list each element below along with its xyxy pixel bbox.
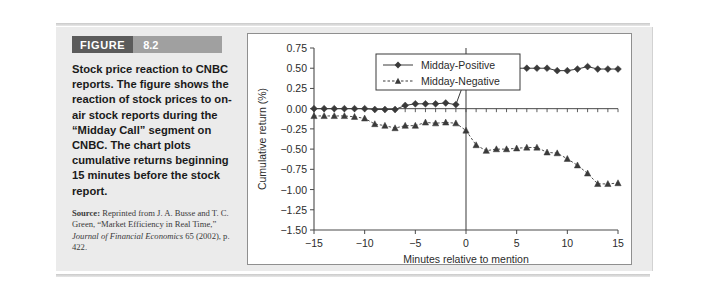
figure-page: FIGURE 8.2 Stock price reaction to CNBC …: [0, 0, 714, 300]
y-tick-label: −0.25: [280, 123, 307, 135]
data-point-marker: [544, 149, 550, 155]
y-tick-label: 0.75: [287, 42, 308, 54]
source-prefix: Source:: [72, 208, 100, 218]
x-tick-label: 0: [463, 237, 469, 249]
data-point-marker: [311, 105, 318, 112]
x-axis-label: Minutes relative to mention: [403, 253, 529, 264]
data-point-marker: [442, 100, 449, 107]
data-point-marker: [432, 100, 439, 107]
data-point-marker: [584, 63, 591, 70]
data-point-marker: [371, 106, 378, 113]
top-divider-rule: [56, 23, 650, 26]
x-tick-label: −5: [409, 237, 421, 249]
data-point-marker: [463, 127, 469, 133]
data-point-marker: [321, 105, 328, 112]
bottom-divider-rule: [56, 274, 650, 277]
y-tick-label: −0.75: [280, 163, 307, 175]
data-point-marker: [392, 125, 398, 131]
figure-label: FIGURE: [72, 36, 133, 53]
data-point-marker: [594, 66, 601, 73]
figure-header: FIGURE 8.2: [72, 36, 222, 53]
data-point-marker: [564, 67, 571, 74]
data-point-marker: [422, 100, 429, 107]
data-point-marker: [605, 181, 611, 187]
y-tick-label: 0.00: [287, 103, 308, 115]
y-tick-label: −1.25: [280, 204, 307, 216]
data-point-marker: [554, 67, 561, 74]
data-point-marker: [372, 121, 378, 127]
data-point-marker: [392, 106, 399, 113]
data-point-marker: [422, 119, 428, 125]
x-tick-label: −10: [356, 237, 374, 249]
caption-column: FIGURE 8.2 Stock price reaction to CNBC …: [72, 36, 240, 253]
data-point-marker: [604, 66, 611, 73]
data-point-marker: [382, 122, 388, 128]
y-tick-label: −0.50: [280, 143, 307, 155]
data-point-marker: [523, 65, 530, 72]
data-point-marker: [361, 105, 368, 112]
figure-source: Source: Reprinted from J. A. Busse and T…: [72, 208, 240, 254]
data-point-marker: [331, 105, 338, 112]
data-point-marker: [514, 145, 520, 151]
legend-label: Midday-Positive: [421, 59, 495, 71]
x-tick-label: 10: [561, 237, 573, 249]
chart-container: 0.750.500.250.00−0.25−0.50−0.75−1.00−1.2…: [247, 33, 632, 265]
y-tick-label: −1.50: [280, 224, 307, 236]
data-point-marker: [534, 65, 541, 72]
x-tick-label: 5: [514, 237, 520, 249]
data-point-marker: [574, 162, 580, 168]
data-point-marker: [362, 115, 368, 121]
data-point-marker: [412, 100, 419, 107]
y-tick-label: −1.00: [280, 184, 307, 196]
data-point-marker: [544, 65, 551, 72]
y-tick-label: 0.25: [287, 82, 308, 94]
source-journal-title: Journal of Financial Economics: [72, 231, 183, 241]
figure-number: 8.2: [133, 36, 222, 53]
data-point-marker: [574, 66, 581, 73]
data-point-marker: [321, 113, 327, 119]
data-point-marker: [452, 101, 459, 108]
data-point-marker: [615, 66, 622, 73]
data-point-marker: [564, 156, 570, 162]
data-point-marker: [341, 105, 348, 112]
data-point-marker: [402, 102, 409, 109]
figure-caption: Stock price reaction to CNBC reports. Th…: [72, 62, 240, 199]
data-point-marker: [382, 106, 389, 113]
data-point-marker: [351, 105, 358, 112]
data-point-marker: [615, 180, 621, 186]
x-tick-label: −15: [305, 237, 323, 249]
data-point-marker: [453, 120, 459, 126]
legend-label: Midday-Negative: [421, 75, 500, 87]
cumulative-return-line-chart: 0.750.500.250.00−0.25−0.50−0.75−1.00−1.2…: [248, 34, 631, 264]
x-tick-label: 15: [612, 237, 624, 249]
data-point-marker: [584, 170, 590, 176]
data-point-marker: [483, 147, 489, 153]
data-point-marker: [443, 119, 449, 125]
y-axis-label: Cumulative return (%): [256, 88, 268, 190]
y-tick-label: 0.50: [287, 62, 308, 74]
